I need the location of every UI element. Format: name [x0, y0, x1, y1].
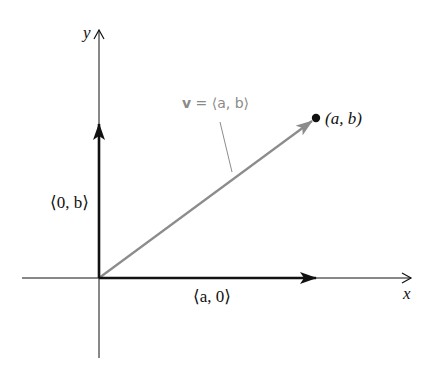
vector-label: v = ⟨a, b⟩	[182, 95, 249, 111]
vector-diagram: y x (a, b) v = ⟨a, b⟩ ⟨0, b⟩ ⟨a, 0⟩	[0, 0, 431, 372]
vector-label-leader	[220, 122, 232, 172]
y-axis-label: y	[81, 23, 91, 42]
vertical-component-label: ⟨0, b⟩	[50, 193, 89, 212]
horizontal-component-label: ⟨a, 0⟩	[193, 287, 231, 306]
point-label: (a, b)	[325, 109, 362, 128]
vector-v-arrow	[99, 121, 312, 278]
point-dot	[312, 114, 320, 122]
vector-label-bold: v	[182, 95, 191, 111]
x-axis-label: x	[402, 284, 411, 303]
vector-label-rest: = ⟨a, b⟩	[191, 95, 249, 111]
